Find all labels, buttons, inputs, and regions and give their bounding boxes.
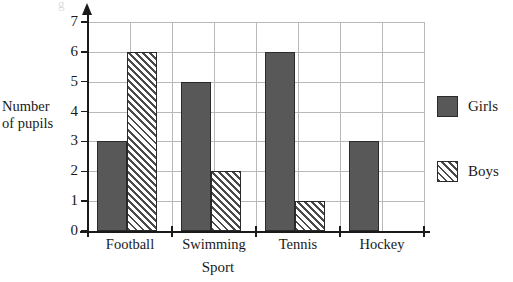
y-axis-tick-label: 6 (56, 44, 78, 59)
legend-item-boys[interactable]: Boys (437, 161, 499, 182)
legend-swatch-boys-icon (437, 161, 458, 182)
legend-swatch-girls-icon (437, 96, 458, 117)
legend-label-boys: Boys (468, 164, 499, 179)
bar-tennis-girls (265, 52, 295, 231)
bar-hockey-girls (349, 141, 379, 231)
bar-football-boys (127, 52, 157, 231)
gridline-vertical (172, 22, 173, 231)
y-axis-tick (81, 81, 88, 82)
x-axis-label-tennis: Tennis (256, 236, 340, 252)
y-axis-tick (81, 51, 88, 52)
scan-bleed-artifact: g (58, 0, 65, 12)
bar-swimming-boys (211, 171, 241, 231)
y-axis-tick-label: 2 (56, 163, 78, 178)
x-axis-label-hockey: Hockey (340, 236, 424, 252)
y-axis-tick-label: 1 (56, 193, 78, 208)
y-axis-tick (81, 171, 88, 172)
x-axis-label-swimming: Swimming (172, 236, 256, 252)
gridline-vertical (340, 22, 341, 231)
y-axis-tick-label: 4 (56, 104, 78, 119)
plot-area (88, 22, 424, 231)
bar-chart: g Number of pupils Sport Girls Boys 0123… (0, 0, 513, 282)
bar-swimming-girls (181, 82, 211, 231)
legend-item-girls[interactable]: Girls (437, 96, 498, 117)
y-axis-tick-label: 7 (56, 14, 78, 29)
gridline-vertical (382, 22, 383, 231)
x-axis-label-football: Football (88, 236, 172, 252)
y-axis-tick-label: 5 (56, 74, 78, 89)
y-axis-tick (81, 141, 88, 142)
legend-label-girls: Girls (468, 99, 498, 114)
gridline-vertical (424, 22, 425, 231)
y-axis-arrow-icon (82, 3, 92, 15)
bar-football-girls (97, 141, 127, 231)
y-axis-tick-label: 3 (56, 133, 78, 148)
y-axis-tick (81, 21, 88, 22)
bar-tennis-boys (295, 201, 325, 231)
y-axis-tick (81, 200, 88, 201)
x-axis-title: Sport (0, 259, 436, 276)
y-axis-line (87, 14, 89, 232)
y-axis-tick-label: 0 (56, 223, 78, 238)
gridline-vertical (298, 22, 299, 231)
gridline-vertical (256, 22, 257, 231)
y-axis-tick (81, 111, 88, 112)
